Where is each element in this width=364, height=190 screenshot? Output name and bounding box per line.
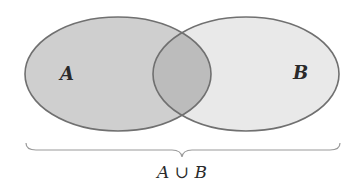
venn-diagram: A B A ∪ B xyxy=(0,0,364,190)
union-label: A ∪ B xyxy=(155,162,207,182)
set-b-label: B xyxy=(292,62,308,83)
set-a-label: A xyxy=(58,63,74,84)
union-brace xyxy=(26,143,340,157)
